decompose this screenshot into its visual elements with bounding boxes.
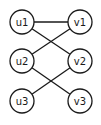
node-label: v2 (74, 56, 86, 67)
edges (32, 22, 70, 94)
node-label: v3 (74, 96, 86, 107)
node-label: v1 (74, 17, 86, 28)
node-v1: v1 (68, 10, 92, 34)
node-label: u2 (16, 56, 29, 67)
node-u1: u1 (10, 10, 34, 34)
node-label: u3 (16, 96, 29, 107)
node-v3: v3 (68, 89, 92, 113)
node-v2: v2 (68, 49, 92, 73)
bipartite-graph: u1u2u3v1v2v3 (0, 0, 101, 125)
node-u2: u2 (10, 49, 34, 73)
node-u3: u3 (10, 89, 34, 113)
node-label: u1 (16, 17, 29, 28)
nodes: u1u2u3v1v2v3 (10, 10, 92, 113)
